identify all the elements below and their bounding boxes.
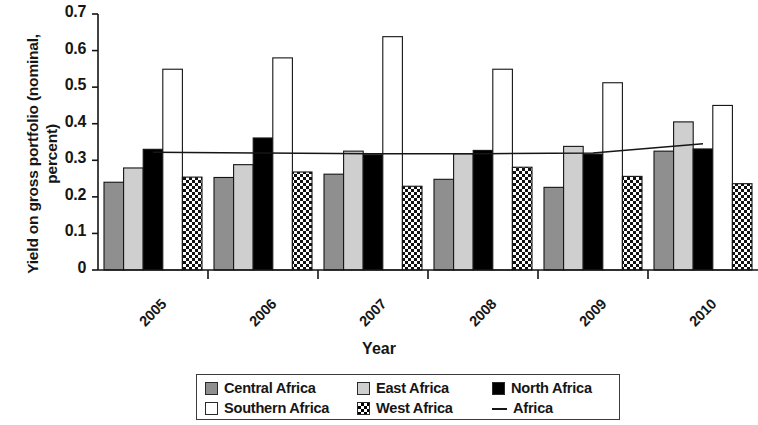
bar [253, 138, 273, 270]
bar [473, 150, 493, 270]
gray-medium-square-icon [205, 382, 218, 395]
legend-label: East Africa [376, 380, 449, 396]
bar [674, 122, 694, 270]
x-axis-title: Year [0, 340, 758, 358]
bar [182, 177, 202, 270]
black-square-icon [492, 382, 505, 395]
bar [732, 184, 752, 270]
legend-row-1: Central Africa East Africa North Africa [205, 378, 613, 398]
bar [564, 146, 584, 270]
bar [622, 176, 642, 270]
legend-label: West Africa [376, 400, 453, 416]
bar [583, 154, 603, 270]
gray-light-square-icon [357, 382, 370, 395]
legend-label: North Africa [511, 380, 592, 396]
legend-label: Africa [513, 400, 553, 416]
bar [603, 83, 623, 270]
bar [104, 182, 124, 270]
bar [163, 69, 183, 270]
bar [292, 172, 312, 270]
chart-legend: Central Africa East Africa North Africa … [196, 374, 620, 420]
white-square-icon [205, 402, 218, 415]
legend-row-2: Southern Africa West Africa Africa [205, 398, 613, 418]
bar [273, 58, 293, 270]
bar [234, 165, 254, 270]
legend-item-southern-africa: Southern Africa [205, 400, 357, 416]
x-axis-title-text: Year [362, 340, 396, 357]
bar [454, 154, 474, 270]
legend-label: Southern Africa [224, 400, 329, 416]
bar [544, 187, 564, 270]
bar [693, 149, 713, 270]
bar [344, 151, 364, 270]
bar [402, 186, 422, 270]
legend-item-central-africa: Central Africa [205, 380, 357, 396]
bar [493, 69, 513, 270]
bar [324, 174, 344, 270]
legend-label: Central Africa [224, 380, 316, 396]
bar [363, 155, 383, 270]
bar [143, 149, 163, 270]
chart-container: Yield on gross portfolio (nominal, perce… [0, 0, 758, 425]
bar [713, 105, 733, 270]
bar [214, 177, 234, 270]
bar [654, 151, 674, 270]
checkerboard-square-icon [357, 402, 370, 415]
legend-item-africa: Africa [492, 400, 553, 416]
bar [124, 168, 144, 270]
bar [512, 167, 532, 270]
legend-item-east-africa: East Africa [357, 380, 492, 396]
bar [434, 179, 454, 270]
legend-item-north-africa: North Africa [492, 380, 592, 396]
plot-area [0, 0, 758, 425]
line-dash-icon [492, 408, 507, 410]
legend-item-west-africa: West Africa [357, 400, 492, 416]
